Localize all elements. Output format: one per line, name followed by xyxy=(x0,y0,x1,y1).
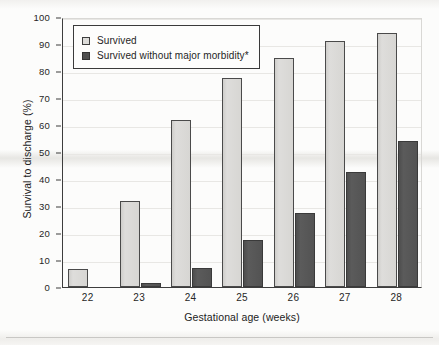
bar-26-survived-without-major-morbidity[interactable] xyxy=(295,213,315,287)
bar-27-survived-without-major-morbidity[interactable] xyxy=(346,172,366,287)
y-tick-label-0: 0 xyxy=(45,283,50,293)
legend-item-survived[interactable]: Survived xyxy=(82,35,249,46)
y-tick-mark-50 xyxy=(56,153,61,154)
bar-28-survived[interactable] xyxy=(377,33,397,287)
bar-22-survived[interactable] xyxy=(68,269,88,287)
bar-group-26 xyxy=(269,19,320,287)
x-tick-label-22: 22 xyxy=(82,292,94,303)
legend-item-survived-without-major-morbidity[interactable]: Survived without major morbidity* xyxy=(82,50,249,61)
bar-group-28 xyxy=(372,19,423,287)
y-tick-mark-80 xyxy=(56,72,61,73)
y-tick-mark-0 xyxy=(56,288,61,289)
y-tick-mark-70 xyxy=(56,99,61,100)
bar-28-survived-without-major-morbidity[interactable] xyxy=(398,141,418,287)
y-tick-label-60: 60 xyxy=(39,121,50,131)
y-tick-mark-10 xyxy=(56,261,61,262)
x-tick-label-27: 27 xyxy=(339,292,351,303)
y-tick-label-20: 20 xyxy=(39,229,50,239)
legend-label-survived: Survived xyxy=(97,35,137,46)
bar-25-survived-without-major-morbidity[interactable] xyxy=(243,240,263,287)
y-tick-label-50: 50 xyxy=(39,148,50,158)
bar-group-27 xyxy=(320,19,371,287)
bar-24-survived-without-major-morbidity[interactable] xyxy=(192,268,212,287)
y-tick-label-40: 40 xyxy=(39,175,50,185)
y-axis-tick-labels: 0102030405060708090100 xyxy=(0,18,56,288)
page-rule-line xyxy=(6,337,433,338)
y-tick-label-90: 90 xyxy=(39,40,50,50)
y-tick-mark-20 xyxy=(56,234,61,235)
bar-24-survived[interactable] xyxy=(171,120,191,287)
y-tick-label-30: 30 xyxy=(39,202,50,212)
x-tick-label-24: 24 xyxy=(185,292,197,303)
bar-27-survived[interactable] xyxy=(325,41,345,287)
bar-23-survived[interactable] xyxy=(120,201,140,287)
bar-26-survived[interactable] xyxy=(274,58,294,288)
x-tick-label-26: 26 xyxy=(288,292,300,303)
y-tick-label-10: 10 xyxy=(39,256,50,266)
y-tick-mark-40 xyxy=(56,180,61,181)
y-tick-label-70: 70 xyxy=(39,94,50,104)
x-axis-tick-labels: 22232425262728 xyxy=(62,292,422,308)
y-tick-mark-60 xyxy=(56,126,61,127)
x-tick-label-23: 23 xyxy=(133,292,145,303)
y-tick-mark-90 xyxy=(56,45,61,46)
x-tick-label-25: 25 xyxy=(236,292,248,303)
plot-area: Survived Survived without major morbidit… xyxy=(62,18,422,288)
y-tick-mark-100 xyxy=(56,18,61,19)
y-tick-label-100: 100 xyxy=(34,13,50,23)
x-axis-title: Gestational age (weeks) xyxy=(62,311,422,323)
y-tick-label-80: 80 xyxy=(39,67,50,77)
bar-25-survived[interactable] xyxy=(222,78,242,287)
bar-chart-figure: Survival to discharge (%) 01020304050607… xyxy=(0,0,439,345)
scan-artifact-top xyxy=(0,0,439,9)
x-tick-label-28: 28 xyxy=(390,292,402,303)
bar-23-survived-without-major-morbidity[interactable] xyxy=(141,283,161,287)
y-tick-mark-30 xyxy=(56,207,61,208)
legend-label-survived-without-major-morbidity: Survived without major morbidity* xyxy=(97,50,249,61)
legend-swatch-dark-icon xyxy=(82,52,90,60)
legend-swatch-light-icon xyxy=(82,37,90,45)
legend: Survived Survived without major morbidit… xyxy=(73,25,260,69)
